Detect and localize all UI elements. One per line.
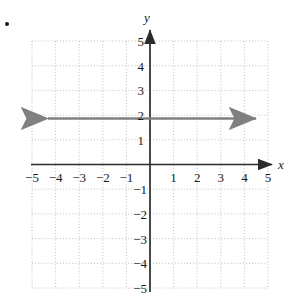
x-tick-label-4: 4 (241, 170, 248, 185)
x-tick-label-3: 3 (218, 170, 225, 185)
x-tick-label-2: 2 (194, 170, 201, 185)
y-tick-label-3: 3 (138, 83, 145, 98)
x-tick-label-1: 1 (170, 170, 177, 185)
x-axis-label: x (277, 157, 284, 172)
graph-svg: y x 5 4 3 2 1 −1 −2 −3 −4 −5 −5 −4 −3 −2… (0, 0, 293, 301)
y-tick-label-neg2: −2 (133, 207, 147, 222)
x-tick-label-neg4: −4 (49, 170, 63, 185)
y-tick-label-neg3: −3 (133, 232, 147, 247)
x-tick-label-neg1: −1 (119, 170, 133, 185)
y-tick-label-neg1: −1 (133, 182, 147, 197)
y-tick-label-neg5: −5 (133, 281, 147, 296)
y-tick-label-2: 2 (138, 108, 145, 123)
coordinate-plane-figure: y x 5 4 3 2 1 −1 −2 −3 −4 −5 −5 −4 −3 −2… (0, 0, 293, 301)
y-tick-label-1: 1 (138, 133, 145, 148)
y-tick-label-5: 5 (138, 34, 145, 49)
y-axis-label: y (142, 10, 150, 25)
x-tick-label-neg3: −3 (72, 170, 86, 185)
x-tick-label-neg2: −2 (96, 170, 110, 185)
x-tick-label-neg5: −5 (25, 170, 39, 185)
x-tick-label-5: 5 (265, 170, 272, 185)
y-tick-label-neg4: −4 (133, 256, 147, 271)
y-tick-label-4: 4 (138, 59, 145, 74)
bullet-marker (5, 22, 9, 26)
